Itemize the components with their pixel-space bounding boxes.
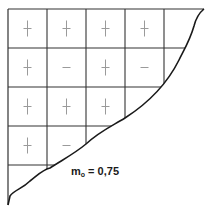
plus-sign-icon	[102, 21, 110, 37]
plus-sign-icon	[24, 99, 32, 115]
plus-sign-icon	[24, 138, 32, 154]
sign-grid-diagram	[0, 0, 209, 212]
grid-lines	[8, 9, 209, 212]
plus-sign-icon	[24, 21, 32, 37]
curve-label-symbol: m	[71, 165, 81, 177]
curve-label-value: = 0,75	[85, 165, 119, 177]
plus-sign-icon	[141, 21, 149, 37]
plus-sign-icon	[63, 21, 71, 37]
curve-label: mo = 0,75	[71, 165, 119, 178]
plus-sign-icon	[63, 99, 71, 115]
plus-sign-icon	[102, 99, 110, 115]
plus-sign-icon	[24, 60, 32, 76]
plus-sign-icon	[102, 60, 110, 76]
